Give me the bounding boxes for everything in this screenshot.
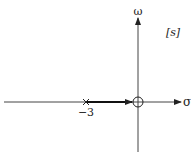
omega-label: ω — [134, 5, 143, 18]
root-locus-diagram: ω [s] σ −3 — [0, 0, 191, 156]
sigma-label: σ — [183, 95, 191, 109]
pole-value-label: −3 — [78, 106, 94, 119]
plane-label: [s] — [166, 26, 181, 39]
